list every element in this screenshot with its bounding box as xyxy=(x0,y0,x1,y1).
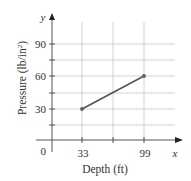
data-point-33-30 xyxy=(80,107,84,111)
chart: 90 60 30 0 33 99 x y Depth (ft) Pressure… xyxy=(0,0,191,181)
y-axis-symbol: y xyxy=(40,11,46,23)
data-point-99-60 xyxy=(142,74,146,78)
y-axis-arrow-icon xyxy=(49,13,55,20)
y-tick-60: 60 xyxy=(35,70,47,82)
y-axis-title: Pressure (lb/in2) xyxy=(16,41,29,115)
x-axis-title: Depth (ft) xyxy=(82,163,128,176)
y-tick-90: 90 xyxy=(35,38,47,50)
x-tick-33: 33 xyxy=(78,147,90,159)
y-tick-30: 30 xyxy=(35,103,47,115)
x-axis-arrow-icon xyxy=(175,137,183,143)
x-axis-symbol: x xyxy=(172,147,178,159)
axes xyxy=(36,17,178,152)
gridlines xyxy=(52,22,175,140)
x-tick-99: 99 xyxy=(140,147,152,159)
origin-label: 0 xyxy=(41,145,47,157)
